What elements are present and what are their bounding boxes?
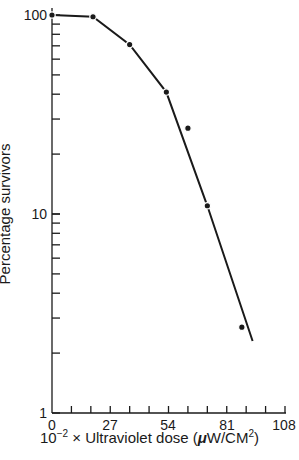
data-point — [90, 14, 96, 20]
x-label-mid: × Ultraviolet dose ( — [68, 429, 198, 446]
data-point — [163, 89, 169, 95]
axes — [52, 8, 286, 413]
fitted-curve — [52, 15, 253, 341]
data-point — [49, 12, 55, 18]
data-point — [204, 203, 210, 209]
x-label-unit: W/CM — [207, 429, 249, 446]
y-tick-labels: 100 10 1 — [24, 7, 48, 421]
x-axis-label: 10−2 × Ultraviolet dose (μW/CM2) — [0, 428, 299, 446]
data-points — [49, 12, 245, 331]
data-point — [185, 125, 191, 131]
data-point — [239, 324, 245, 330]
data-point — [126, 41, 132, 47]
survival-chart: 100 10 1 0 27 54 81 108 — [0, 0, 299, 460]
y-axis-ticks — [52, 15, 60, 413]
x-label-suffix: ) — [254, 429, 259, 446]
x-label-mu: μ — [198, 429, 207, 446]
x-label-prefix: 10 — [40, 429, 57, 446]
y-tick-100: 100 — [24, 7, 48, 23]
x-axis-ticks — [71, 406, 285, 413]
y-axis-label-text: Percentage survivors — [0, 144, 13, 285]
x-label-exponent: −2 — [57, 428, 68, 439]
y-tick-1: 1 — [39, 405, 47, 421]
y-tick-10: 10 — [31, 206, 47, 222]
